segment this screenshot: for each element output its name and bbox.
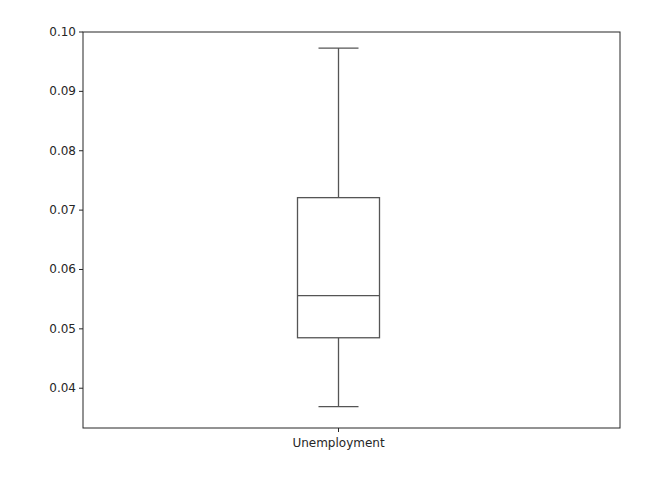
y-tick-label: 0.07 bbox=[49, 203, 76, 217]
x-tick-label: Unemployment bbox=[292, 436, 385, 450]
y-tick-label: 0.04 bbox=[49, 381, 76, 395]
plot-frame bbox=[83, 32, 620, 428]
y-tick-label: 0.06 bbox=[49, 262, 76, 276]
y-tick-label: 0.08 bbox=[49, 144, 76, 158]
y-tick-label: 0.05 bbox=[49, 322, 76, 336]
box-plot-elements bbox=[298, 48, 380, 407]
box-plot-chart: 0.040.050.060.070.080.090.10 Unemploymen… bbox=[0, 0, 650, 480]
iqr-box bbox=[298, 198, 380, 338]
x-axis-ticks: Unemployment bbox=[292, 428, 385, 450]
y-tick-label: 0.09 bbox=[49, 84, 76, 98]
y-axis-ticks: 0.040.050.060.070.080.090.10 bbox=[49, 25, 83, 395]
y-tick-label: 0.10 bbox=[49, 25, 76, 39]
